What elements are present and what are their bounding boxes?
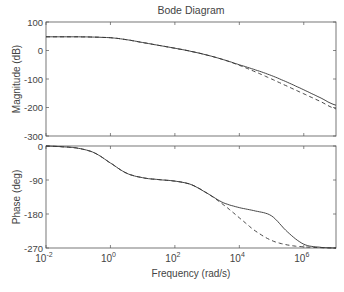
y-tick-label: -180 xyxy=(24,209,43,220)
x-tick-label: 106 xyxy=(294,251,309,264)
y-tick-label: -270 xyxy=(24,243,43,254)
magnitude-y-label: Magnitude (dB) xyxy=(11,45,22,113)
x-axis-label: Frequency (rad/s) xyxy=(152,268,231,279)
x-tick-labels: 10-2100102104106 xyxy=(35,251,309,264)
bode-diagram: Bode Diagram 1000-100-200-300 Magnitude … xyxy=(0,0,344,292)
y-tick-label: 0 xyxy=(38,45,43,56)
magnitude-plot-area xyxy=(46,22,336,136)
y-tick-label: 100 xyxy=(27,17,43,28)
y-tick-label: -100 xyxy=(24,74,43,85)
y-tick-label: -200 xyxy=(24,102,43,113)
x-tick-label: 104 xyxy=(230,251,245,264)
chart-title: Bode Diagram xyxy=(157,4,224,16)
phase-y-label: Phase (deg) xyxy=(11,170,22,224)
x-tick-label: 102 xyxy=(165,251,180,264)
y-tick-label: 0 xyxy=(38,141,43,152)
phase-axes: 0-90-180-270 Phase (deg) xyxy=(11,141,336,254)
phase-plot-area xyxy=(46,146,336,248)
x-tick-label: 10-2 xyxy=(35,251,52,264)
y-tick-label: -90 xyxy=(29,175,43,186)
x-tick-label: 100 xyxy=(101,251,116,264)
magnitude-axes: 1000-100-200-300 Magnitude (dB) xyxy=(11,17,336,142)
